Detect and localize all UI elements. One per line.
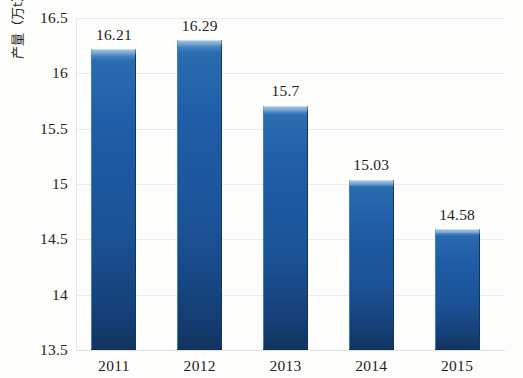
bar-value-label: 16.21 (96, 27, 132, 43)
plot-area: 16.2116.2915.715.0314.58 (76, 18, 505, 350)
bar-group[interactable]: 15.03 (349, 18, 394, 350)
bar-group[interactable]: 16.21 (91, 18, 136, 350)
bar-chart: 产量（万t） 13.51414.51515.51616.5 16.2116.29… (0, 0, 523, 378)
y-axis-tick-label: 16.5 (40, 10, 68, 26)
bar-value-label: 15.03 (353, 157, 389, 173)
bar[interactable] (263, 106, 308, 350)
bar[interactable] (435, 229, 480, 350)
y-axis-tick-label: 16 (52, 65, 68, 81)
bar-value-label: 14.58 (439, 207, 475, 223)
x-axis-tick-label: 2015 (415, 358, 500, 374)
y-axis-tick-label: 14.5 (40, 231, 68, 247)
bar-group[interactable]: 16.29 (177, 18, 222, 350)
x-axis-tick-label: 2012 (157, 358, 242, 374)
y-axis-tick-labels: 13.51414.51515.51616.5 (0, 0, 68, 378)
y-axis-tick-label: 15.5 (40, 121, 68, 137)
bar-value-label: 15.7 (272, 83, 300, 99)
x-axis-tick-label: 2011 (71, 358, 156, 374)
bar-group[interactable]: 15.7 (263, 18, 308, 350)
x-axis-tick-label: 2013 (243, 358, 328, 374)
bar-value-label: 16.29 (182, 18, 218, 34)
y-axis-tick-label: 15 (52, 176, 68, 192)
x-axis-tick-label: 2014 (329, 358, 414, 374)
bar-group[interactable]: 14.58 (435, 18, 480, 350)
gridline (76, 350, 505, 351)
bar[interactable] (91, 49, 136, 350)
y-axis-tick-label: 14 (52, 287, 68, 303)
bar[interactable] (349, 180, 394, 350)
bar[interactable] (177, 40, 222, 350)
y-axis-tick-label: 13.5 (40, 342, 68, 358)
